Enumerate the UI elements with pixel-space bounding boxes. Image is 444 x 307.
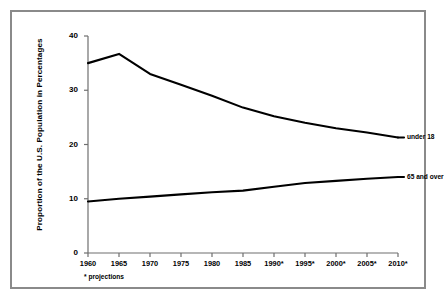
line-chart: Proportion of the U.S. Population in Per… [12, 12, 428, 291]
series-label-65-and-over: 65 and over [407, 173, 444, 180]
x-tick-label: 1990* [264, 260, 283, 268]
projections-footnote: * projections [84, 273, 124, 280]
series-lines [88, 54, 398, 202]
x-tick-label: 1965 [111, 260, 127, 268]
series-label-leaders [398, 137, 404, 177]
x-tick-label: 1970 [142, 260, 158, 268]
x-tick-label: 1980 [204, 260, 220, 268]
y-tick-label: 30 [52, 86, 78, 94]
x-tick-label: 1975 [173, 260, 189, 268]
series-line-1 [88, 54, 398, 138]
figure-frame: Proportion of the U.S. Population in Per… [10, 10, 426, 289]
series-line-2 [88, 177, 398, 201]
y-tick-label: 0 [52, 249, 78, 257]
x-tick-label: 2000* [326, 260, 345, 268]
x-tick-label: 2010* [388, 260, 407, 268]
x-axis-ticks [88, 253, 398, 257]
x-tick-label: 2005* [357, 260, 376, 268]
y-tick-label: 40 [52, 32, 78, 40]
x-tick-label: 1995* [295, 260, 314, 268]
y-tick-label: 20 [52, 141, 78, 149]
x-tick-label: 1985 [235, 260, 251, 268]
y-axis-title: Proportion of the U.S. Population in Per… [35, 35, 44, 235]
series-label-under-18: under 18 [407, 133, 434, 140]
y-tick-label: 10 [52, 195, 78, 203]
x-tick-label: 1960 [80, 260, 96, 268]
